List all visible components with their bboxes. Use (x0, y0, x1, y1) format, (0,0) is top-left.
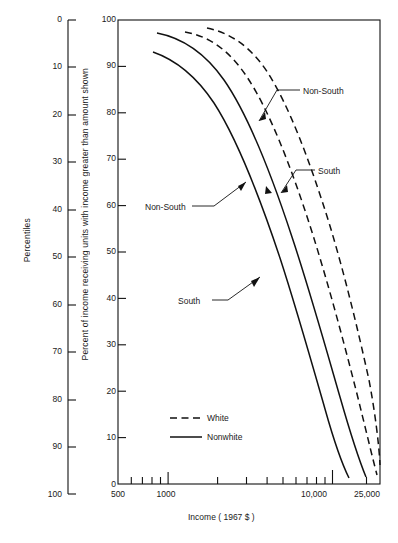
leader-white-south (281, 170, 315, 193)
curve-white-south (185, 32, 377, 475)
curve-nonwhite-non-south (157, 33, 366, 477)
leader-nonwhite-non-south (192, 182, 246, 206)
leader-white-non-south (259, 90, 300, 121)
chart-canvas (0, 0, 398, 543)
chart-figure: Percentiles Percent of income receiving … (0, 0, 398, 543)
leader-white-south-secondary (265, 186, 272, 194)
curve-nonwhite-south (153, 52, 349, 478)
x-axis-ticks (131, 470, 366, 484)
plot-frame (118, 20, 380, 484)
percent-axis-ticks (118, 66, 126, 437)
percentile-axis (68, 20, 76, 494)
leader-nonwhite-south (212, 277, 260, 300)
